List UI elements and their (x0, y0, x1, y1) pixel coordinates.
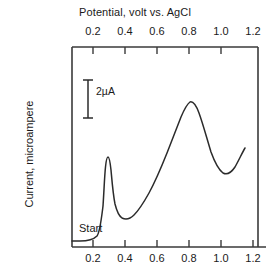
chart-page: Potential, volt vs. AgCl 0.2 0.4 0.6 0.8… (0, 0, 270, 276)
scale-bar (83, 80, 93, 118)
plot-area (0, 0, 270, 276)
bottom-axis-ticks (93, 240, 253, 247)
top-axis-ticks (93, 47, 221, 54)
start-annotation: Start (79, 222, 102, 234)
scale-bar-label: 2µA (96, 85, 115, 97)
voltammogram-curve (72, 102, 245, 241)
